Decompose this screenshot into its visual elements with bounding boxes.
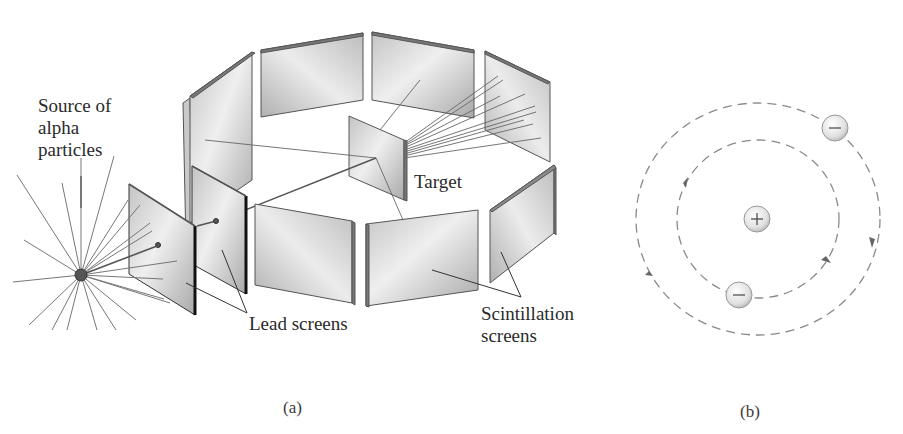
label-line: Source of (38, 95, 111, 117)
electron-outer (822, 115, 848, 141)
label-line: Scintillation (481, 303, 574, 325)
label-lead-screens: Lead screens (249, 313, 348, 335)
label-line: screens (481, 325, 574, 347)
label-line: alpha (38, 117, 111, 139)
orbit-arrow-icon (645, 271, 653, 276)
caption-panel-a: (a) (283, 398, 302, 418)
target-foil (349, 116, 407, 201)
diagram-canvas (0, 0, 903, 434)
caption-panel-b: (b) (740, 402, 760, 422)
orbit-arrow-icon (683, 177, 688, 188)
label-source-of-alpha-particles: Source of alpha particles (38, 95, 111, 161)
panel-a-apparatus (13, 32, 556, 330)
figure: Source of alpha particles Target Lead sc… (0, 0, 903, 434)
nucleus (744, 206, 770, 232)
panel-b-atom-model (636, 103, 880, 335)
label-scintillation-screens: Scintillation screens (481, 303, 574, 347)
label-target: Target (414, 171, 462, 193)
label-line: particles (38, 139, 111, 161)
electron-inner (726, 282, 752, 308)
orbit-arrow-icon (869, 237, 875, 248)
